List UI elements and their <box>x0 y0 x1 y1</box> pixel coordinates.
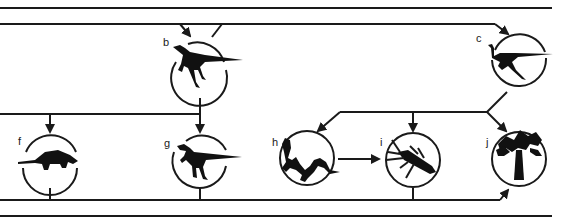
node-i-label: i <box>380 136 382 148</box>
node-f-label: f <box>18 135 22 147</box>
beetle-icon <box>386 140 436 178</box>
edge-b-to-top <box>212 24 222 37</box>
node-g: g <box>164 136 242 188</box>
ankylosaur-icon <box>18 150 78 170</box>
node-i: i <box>380 133 440 187</box>
edge-top-to-c <box>495 24 508 34</box>
node-f-circle <box>23 135 77 195</box>
node-j: j <box>485 130 546 186</box>
node-h: h <box>272 131 340 185</box>
edge-c-to-j <box>487 112 506 131</box>
edge-bottom-to-j <box>500 190 508 200</box>
node-j-label: j <box>485 136 488 148</box>
node-c-label: c <box>476 32 482 44</box>
theropod-icon <box>177 144 242 180</box>
node-f: f <box>18 135 78 195</box>
edge-c-down <box>487 92 507 112</box>
node-c: c <box>476 32 553 86</box>
edge-top-to-b <box>180 24 190 36</box>
node-g-label: g <box>164 137 170 149</box>
small-dinosaur-icon <box>173 45 243 88</box>
node-b: b <box>163 36 243 106</box>
edge-c-to-h <box>318 112 340 131</box>
food-web-diagram: b c f g h i <box>0 0 566 221</box>
node-h-label: h <box>272 136 278 148</box>
node-b-label: b <box>163 36 169 48</box>
